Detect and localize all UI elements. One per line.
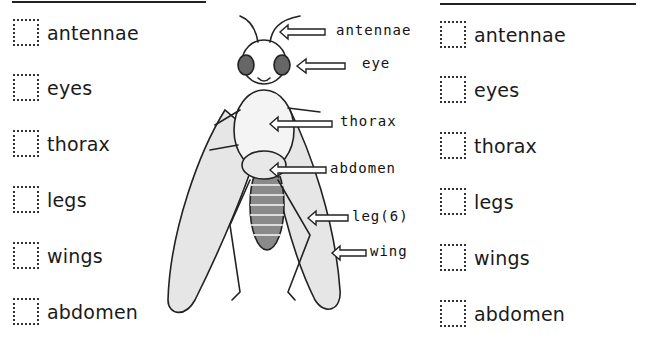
diagram-label-wing: wing bbox=[370, 243, 408, 259]
left-item-wings: wings bbox=[13, 242, 103, 269]
left-item-abdomen: abdomen bbox=[13, 298, 138, 325]
item-label: thorax bbox=[47, 133, 110, 155]
diagram-label-eye: eye bbox=[362, 55, 390, 71]
right-item-thorax: thorax bbox=[440, 132, 537, 159]
item-label: eyes bbox=[47, 77, 92, 99]
diagram-label-antennae: antennae bbox=[336, 22, 411, 38]
right-item-eyes: eyes bbox=[440, 76, 519, 103]
item-label: antennae bbox=[47, 22, 139, 44]
left-item-eyes: eyes bbox=[13, 74, 92, 101]
checkbox[interactable] bbox=[440, 76, 466, 103]
item-label: legs bbox=[47, 189, 87, 211]
item-label: abdomen bbox=[47, 301, 138, 323]
item-label: wings bbox=[474, 247, 530, 269]
diagram-label-thorax: thorax bbox=[340, 113, 397, 129]
item-label: legs bbox=[474, 191, 514, 213]
checkbox[interactable] bbox=[13, 74, 39, 101]
checkbox[interactable] bbox=[13, 130, 39, 157]
diagram-label-abdomen: abdomen bbox=[330, 160, 396, 176]
checkbox[interactable] bbox=[13, 186, 39, 213]
left-item-legs: legs bbox=[13, 186, 87, 213]
checkbox[interactable] bbox=[440, 244, 466, 271]
item-label: wings bbox=[47, 245, 103, 267]
checkbox[interactable] bbox=[440, 188, 466, 215]
right-item-legs: legs bbox=[440, 188, 514, 215]
right-item-abdomen: abdomen bbox=[440, 300, 565, 327]
item-label: abdomen bbox=[474, 303, 565, 325]
checkbox[interactable] bbox=[13, 298, 39, 325]
item-label: eyes bbox=[474, 79, 519, 101]
item-label: antennae bbox=[474, 24, 566, 46]
right-item-wings: wings bbox=[440, 244, 530, 271]
checkbox[interactable] bbox=[13, 19, 39, 46]
diagram-label-leg: leg(6) bbox=[352, 208, 409, 224]
right-answer-line bbox=[440, 3, 636, 5]
left-item-thorax: thorax bbox=[13, 130, 110, 157]
checkbox[interactable] bbox=[440, 132, 466, 159]
right-item-antennae: antennae bbox=[440, 21, 566, 48]
left-item-antennae: antennae bbox=[13, 19, 139, 46]
insect-diagram: antennae eye thorax abdomen leg(6) wing bbox=[160, 0, 420, 340]
item-label: thorax bbox=[474, 135, 537, 157]
checkbox[interactable] bbox=[440, 300, 466, 327]
checkbox[interactable] bbox=[13, 242, 39, 269]
checkbox[interactable] bbox=[440, 21, 466, 48]
